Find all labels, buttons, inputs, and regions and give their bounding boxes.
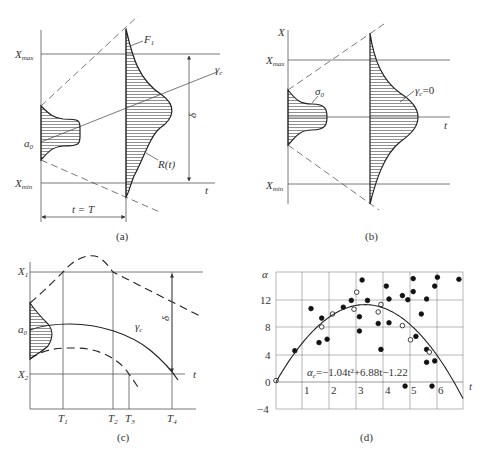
data-point-filled: [379, 347, 384, 352]
data-point-open: [400, 323, 405, 328]
panel-b-xmin-label: Xmin: [265, 179, 284, 193]
data-point-filled: [411, 276, 416, 281]
panel-a-f1-label: F1: [143, 33, 154, 47]
panel-d-ytick-neg4: −4: [257, 403, 269, 415]
data-point-filled: [424, 297, 429, 302]
panel-c-t2-label: T2: [108, 412, 118, 426]
panel-d-xtick-4: 4: [385, 384, 391, 396]
data-point-filled: [319, 316, 324, 321]
panel-d-y-axis-label: α: [262, 268, 268, 280]
panel-b-lower-envelope: [288, 145, 379, 210]
data-point-filled: [309, 306, 314, 311]
data-point-filled: [349, 298, 354, 303]
panel-a-xmin-label: Xmin: [14, 177, 33, 191]
panel-a-caption: (a): [116, 230, 129, 243]
panel-c-t4-label: T4: [167, 412, 177, 426]
data-point-filled: [414, 334, 419, 339]
panel-b-caption: (b): [365, 230, 378, 243]
panel-a-upper-envelope: [41, 16, 138, 106]
panel-a-f1-leader: [130, 41, 143, 46]
data-point-filled: [376, 321, 381, 326]
panel-c-caption: (c): [117, 431, 130, 444]
data-point-filled: [365, 298, 370, 303]
data-point-open: [352, 307, 357, 312]
panel-c-a0-label: a0: [18, 323, 28, 337]
data-point-filled: [357, 329, 362, 334]
panel-b-sigma-label: σ0: [315, 85, 324, 99]
data-point-filled: [325, 337, 330, 342]
data-point-filled: [360, 278, 365, 283]
figure-canvas: Xmax Xmin a0 F1 γc R(t) δ t t = T (a) X …: [0, 0, 486, 457]
panel-a-lower-envelope: [41, 160, 162, 213]
data-point-filled: [430, 384, 435, 389]
data-point-filled: [403, 384, 408, 389]
data-point-filled: [317, 340, 322, 345]
panel-d-ytick-12: 12: [260, 294, 271, 306]
panel-a-t-axis-label: t: [205, 184, 209, 196]
panel-a-rt-leader: [146, 153, 158, 160]
data-point-filled: [406, 297, 411, 302]
data-point-filled: [419, 312, 424, 317]
panel-c: [30, 256, 203, 409]
panel-d-t-axis-label: t: [469, 380, 473, 392]
panel-c-x1-label: X1: [17, 265, 28, 279]
panel-d-xtick-3: 3: [358, 384, 364, 396]
panel-d-ytick-4: 4: [265, 349, 271, 361]
panel-a-interval-label: t = T: [72, 203, 95, 215]
panel-b-x-axis-label: X: [277, 26, 286, 38]
data-point-filled: [432, 359, 437, 364]
panel-b-sigma-leader: [312, 96, 318, 103]
data-point-filled: [435, 275, 440, 280]
panel-b-t-axis-label: t: [444, 119, 448, 131]
panel-c-lower-envelope: [30, 348, 138, 387]
data-point-filled: [411, 289, 416, 294]
data-point-open: [319, 325, 324, 330]
panel-d-xtick-6: 6: [438, 384, 444, 396]
data-point-open: [408, 338, 413, 343]
data-point-filled: [424, 360, 429, 365]
data-point-open: [354, 290, 359, 295]
panel-a-xmax-label: Xmax: [14, 48, 34, 62]
data-point-filled: [357, 314, 362, 319]
panel-d-xtick-5: 5: [411, 384, 417, 396]
panel-b-gamma-label: γc=0: [415, 84, 435, 98]
panel-d-xtick-1: 1: [304, 384, 310, 396]
panel-c-gamma-label: γc: [135, 320, 143, 334]
panel-b-final-distribution: [370, 33, 418, 204]
data-point-filled: [384, 284, 389, 289]
panel-c-upper-envelope: [30, 256, 200, 316]
panel-c-delta-label: δ: [159, 315, 171, 321]
panel-b: [288, 24, 450, 210]
panel-a-rt-label: R(t): [157, 158, 175, 171]
data-point-filled: [387, 321, 392, 326]
data-point-filled: [387, 297, 392, 302]
panel-a-delta-label: δ: [186, 112, 198, 118]
panel-c-t1-label: T1: [58, 412, 68, 426]
panel-a-initial-distribution: [41, 106, 80, 160]
data-point-filled: [400, 293, 405, 298]
panel-a-a0-label: a0: [24, 137, 34, 151]
panel-a-gamma-label: γc: [215, 63, 223, 77]
panel-c-t-axis-label: t: [193, 368, 197, 380]
panel-d-labels: α 12 8 4 0 −4 1 2 3 4 5 6 t αc=−1.04t²+6…: [257, 268, 473, 444]
panel-d-ytick-8: 8: [265, 321, 271, 333]
panel-d-xtick-2: 2: [331, 384, 337, 396]
panel-a: [41, 16, 220, 222]
panel-d-equation: αc=−1.04t²+6.88t−1.22: [307, 366, 408, 380]
data-point-filled: [457, 277, 462, 282]
panel-c-labels: X1 X2 a0 γc δ t T1 T2 T3 T4 (c): [17, 265, 197, 444]
panel-c-t3-label: T3: [125, 412, 135, 426]
panel-b-xmax-label: Xmax: [265, 54, 285, 68]
data-point-filled: [432, 284, 437, 289]
data-point-open: [427, 350, 432, 355]
panel-c-x2-label: X2: [17, 368, 29, 382]
panel-d-ytick-0: 0: [265, 376, 271, 388]
data-point-open: [376, 310, 381, 315]
panel-d-caption: (d): [360, 431, 373, 444]
